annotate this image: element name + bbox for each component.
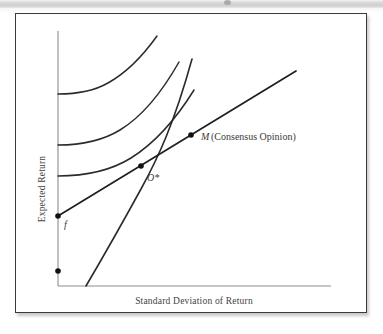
point-risk-free xyxy=(55,213,61,219)
scan-top-bar xyxy=(0,0,383,8)
axes-group xyxy=(58,31,331,286)
x-axis-title: Standard Deviation of Return xyxy=(135,296,253,306)
scan-artifact-mark xyxy=(224,0,231,5)
y-axis-title: Expected Return xyxy=(37,156,47,223)
label-market-portfolio-parenthetical: (Consensus Opinion) xyxy=(211,131,296,143)
label-optimal-portfolio: O* xyxy=(147,172,159,183)
label-risk-free: f xyxy=(64,219,68,230)
point-optimal-portfolio xyxy=(138,163,144,169)
capital-market-line xyxy=(58,71,296,216)
point-market-portfolio xyxy=(188,132,194,138)
label-market-portfolio: M xyxy=(200,131,210,142)
data-points-group xyxy=(55,132,194,274)
indifference-curve-1 xyxy=(58,36,157,94)
chart-canvas: f O* M (Consensus Opinion) Standard Devi… xyxy=(16,14,368,314)
indifference-curves-group xyxy=(58,36,194,176)
efficient-frontier-curve xyxy=(86,59,192,286)
indifference-curve-3 xyxy=(58,90,194,176)
point-axis-origin-dot xyxy=(55,268,61,274)
figure-frame: f O* M (Consensus Opinion) Standard Devi… xyxy=(15,13,367,313)
